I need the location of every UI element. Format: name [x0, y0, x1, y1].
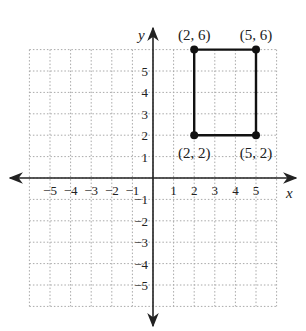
y-tick-label: 4 [142, 85, 149, 100]
y-tick-label: 5 [142, 64, 149, 79]
x-tick-label: −2 [105, 183, 119, 198]
point-label: (2, 6) [178, 27, 211, 44]
x-tick-label: 2 [191, 183, 198, 198]
data-point [252, 131, 260, 139]
y-axis-label: y [136, 27, 145, 43]
rectangle-plot [190, 46, 260, 140]
x-tick-label: 4 [232, 183, 239, 198]
y-tick-label: −3 [134, 235, 148, 250]
x-tick-label: −3 [84, 183, 98, 198]
y-tick-label: −2 [134, 214, 148, 229]
x-axis-label: x [285, 185, 293, 201]
x-tick-label: 5 [253, 183, 260, 198]
y-tick-label: 3 [142, 107, 149, 122]
y-tick-label: −5 [134, 278, 148, 293]
axes: xy [10, 27, 296, 326]
y-tick-label: 1 [142, 150, 149, 165]
coordinate-plane: xy −5−4−3−2−112345−5−4−3−2−112345 (2, 6)… [0, 0, 306, 331]
point-label: (2, 2) [178, 145, 211, 162]
x-tick-label: 1 [170, 183, 177, 198]
point-label: (5, 2) [240, 145, 273, 162]
point-label: (5, 6) [240, 27, 273, 44]
y-tick-label: −1 [134, 192, 148, 207]
y-tick-label: −4 [134, 257, 148, 272]
data-point [190, 131, 198, 139]
data-point [252, 46, 260, 54]
data-point [190, 46, 198, 54]
x-tick-label: −4 [64, 183, 78, 198]
x-tick-label: 3 [212, 183, 219, 198]
x-tick-label: −5 [43, 183, 57, 198]
y-tick-label: 2 [142, 128, 149, 143]
